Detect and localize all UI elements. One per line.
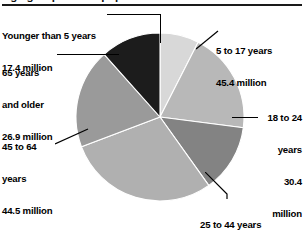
slice-label-45-line2: years (2, 174, 52, 185)
slice-label-25-to-44: 25 to 44 years 67.6 million (200, 199, 261, 230)
leader-line-45 (55, 129, 88, 144)
slice-label-younger-line1: Younger than 5 years (2, 31, 96, 42)
leader-line-25to44-svg (205, 172, 229, 200)
slice-label-65-line2: and older (2, 100, 52, 111)
slice-label-65-line1: 65 years (2, 68, 52, 79)
slice-label-25to44-line1: 25 to 44 years (200, 220, 261, 230)
slice-label-45-line3: 44.5 million (2, 206, 52, 217)
leader-line-18to24 (232, 117, 258, 118)
slice-label-5to17-line1: 5 to 17 years (216, 46, 272, 57)
slice-label-18-to-24: 18 to 24 years 30.4 million (267, 92, 302, 230)
slice-label-18to24-line3: 30.4 (267, 177, 302, 188)
slice-label-45-to-64: 45 to 64 years 44.5 million (2, 121, 52, 230)
slice-label-18to24-line4: million (267, 209, 302, 220)
chart-canvas: Age groups in the population Younger tha… (0, 0, 304, 230)
slice-label-18to24-line2: years (267, 145, 302, 156)
leader-line-45-svg (55, 128, 90, 146)
slice-label-5to17-line2: 45.4 million (216, 78, 272, 89)
leader-line-younger-drop (160, 14, 161, 43)
leader-line-younger (107, 14, 161, 15)
slice-label-5-to-17: 5 to 17 years 45.4 million (216, 25, 272, 110)
slice-label-18to24-line1: 18 to 24 (267, 113, 302, 124)
leader-line-5to17 (196, 31, 218, 49)
slice-label-45-line1: 45 to 64 (2, 142, 52, 153)
leader-line-25to44 (205, 172, 227, 199)
